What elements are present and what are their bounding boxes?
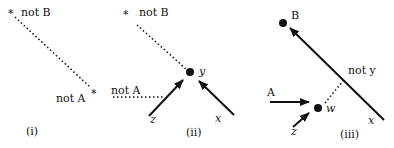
star-icon: * [91, 87, 97, 100]
not-b-label: not B [139, 6, 169, 19]
b-label: B [291, 9, 299, 22]
arrow-x [199, 81, 234, 115]
not-a-label: not A [111, 84, 142, 97]
z-label: z [149, 113, 156, 126]
x-label: x [368, 114, 375, 127]
node-y [186, 68, 194, 76]
diagram-canvas: * not B * not A (i) * not B y not A z x … [0, 0, 394, 148]
not-a-label: not A [56, 92, 87, 105]
node-w [314, 104, 322, 112]
panel-caption: (ii) [186, 126, 202, 139]
y-label: y [198, 65, 206, 78]
x-label: x [215, 112, 222, 125]
z-label: z [290, 125, 297, 138]
panel-caption: (i) [26, 125, 38, 138]
not-y-label: not y [348, 64, 377, 77]
a-label: A [266, 86, 276, 99]
node-b [279, 19, 287, 27]
dotted-link [325, 81, 343, 103]
star-icon: * [123, 8, 129, 21]
star-icon: * [8, 7, 14, 20]
w-label: w [326, 102, 336, 115]
dotted-link [137, 25, 186, 69]
not-b-label: not B [21, 6, 51, 19]
arrow-z [149, 80, 183, 116]
panel-iii: B not y w A z x (iii) [266, 9, 384, 141]
panel-i: * not B * not A (i) [8, 6, 97, 138]
panel-ii: * not B y not A z x (ii) [111, 6, 234, 139]
dotted-link [15, 17, 91, 88]
panel-caption: (iii) [340, 128, 359, 141]
